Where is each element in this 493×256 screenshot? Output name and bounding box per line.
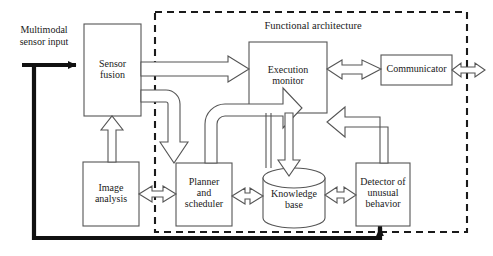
node-detector-of-unusual-behavior [356,163,410,226]
diagram-canvas [0,0,493,256]
edge-knowledge-base-to-execution-monitor-line [266,113,271,168]
edge-sensor-fusion-to-planner [141,90,188,163]
edge-execution-monitor-to-knowledge-base [278,113,300,176]
node-image-analysis [83,162,139,226]
functional-architecture-diagram: Multimodal sensor input Functional archi… [0,0,493,256]
node-planner-and-scheduler [176,163,232,226]
node-knowledge-base [263,168,325,228]
edge-planner-to-knowledge-base [232,188,263,204]
edge-image-analysis-to-planner [139,186,176,202]
node-communicator [381,55,452,85]
edge-sensor-fusion-to-execution-monitor [141,56,249,82]
edge-knowledge-base-to-execution-monitor [258,120,272,160]
edge-knowledge-base-to-detector [325,187,356,203]
node-sensor-fusion [84,24,141,116]
edge-execution-monitor-to-communicator [327,60,381,79]
edge-detector-to-execution-monitor [327,107,388,163]
edge-communicator-to-external [452,63,485,77]
edge-image-analysis-to-sensor-fusion [101,116,123,162]
